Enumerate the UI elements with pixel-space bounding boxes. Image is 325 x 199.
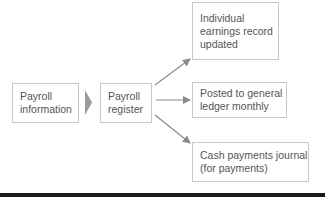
- earnings-record-box: Individual earnings record updated: [192, 2, 279, 60]
- box-line: register: [108, 103, 144, 116]
- cash-payments-journal-box: Cash payments journal (for payments): [192, 142, 309, 182]
- box-line: updated: [200, 38, 271, 51]
- box-line: Payroll: [20, 90, 71, 103]
- box-line: Posted to general: [200, 87, 279, 100]
- payroll-information-box: Payroll information: [12, 83, 79, 123]
- arrow-to-earnings-record: [155, 59, 190, 85]
- box-line: earnings record: [200, 25, 271, 38]
- bottom-rule: [0, 193, 325, 197]
- box-line: Individual: [200, 12, 271, 25]
- box-line: Payroll: [108, 90, 144, 103]
- general-ledger-box: Posted to general ledger monthly: [192, 82, 287, 118]
- arrow-to-cash-payments: [155, 115, 190, 143]
- box-line: ledger monthly: [200, 100, 279, 113]
- box-line: information: [20, 103, 71, 116]
- box-line: Cash payments journal: [200, 149, 301, 162]
- box-line: (for payments): [200, 162, 301, 175]
- payroll-register-box: Payroll register: [100, 83, 152, 123]
- chevron-arrow-icon: [85, 90, 92, 115]
